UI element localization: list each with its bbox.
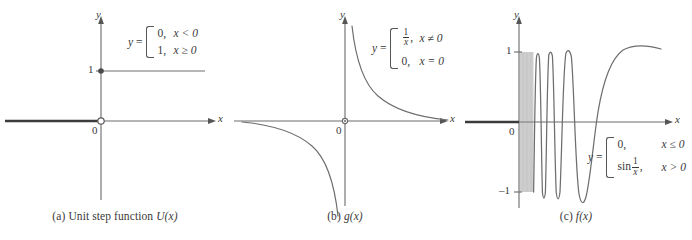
panel-a-case-row: 1, x ≥ 0 — [158, 43, 198, 57]
panel-c-x-axis-label: x — [675, 113, 680, 125]
panel-c-case-condition: x > 0 — [662, 160, 686, 174]
panel-b-case-value-fraction: 1 x , — [402, 28, 420, 48]
panel-b-fraction-numerator: 1 — [403, 28, 410, 38]
panel-a-origin-label: 0 — [92, 124, 98, 136]
panel-b-fraction-denominator: x — [403, 37, 409, 48]
panel-b-caption-function: g(x) — [344, 210, 363, 222]
panel-a-caption: (a) Unit step function U(x) — [0, 210, 230, 222]
panel-c-sine-one-over-x: y x 0 1 –1 y = 0, x ≤ 0 sin1x, x > 0 — [461, 0, 691, 240]
panel-c-plot — [461, 0, 692, 240]
panel-a-formula: y = 0, x < 0 1, x ≥ 0 — [128, 26, 198, 58]
panel-a-formula-equals: = — [136, 36, 143, 48]
panel-b-case-condition: x = 0 — [420, 54, 444, 68]
panel-c-case-row: sin1x, x > 0 — [618, 157, 686, 177]
panel-a-x-axis-label: x — [218, 112, 223, 124]
panel-b-formula-lhs: y — [372, 42, 377, 54]
panel-c-y-axis-label: y — [514, 8, 519, 20]
panel-a-case-value: 0, — [158, 26, 174, 40]
panel-c-formula-brace — [606, 137, 614, 178]
panel-c-case-row: 0, x ≤ 0 — [618, 137, 686, 151]
panel-a-formula-cases: 0, x < 0 1, x ≥ 0 — [158, 26, 198, 58]
panel-b-caption: (b) g(x) — [230, 210, 460, 222]
panel-b-y-axis-label: y — [340, 8, 345, 20]
panel-a-case-value: 1, — [158, 43, 174, 57]
panel-b-reciprocal: y x 0 y = 1 x , x ≠ 0 0, x = — [230, 0, 460, 240]
panel-c-case-value: 0, — [618, 137, 662, 151]
panel-a-case-condition: x < 0 — [174, 26, 198, 40]
panel-b-case-row: 1 x , x ≠ 0 — [402, 28, 444, 48]
panel-a-formula-lhs: y — [128, 36, 133, 48]
panel-a-caption-prefix: (a) — [52, 210, 65, 222]
panel-b-formula-cases: 1 x , x ≠ 0 0, x = 0 — [402, 28, 444, 69]
panel-c-case-condition: x ≤ 0 — [662, 137, 685, 151]
panel-c-origin-label: 0 — [509, 125, 515, 137]
panel-c-formula-equals: = — [596, 151, 603, 163]
panel-a-case-condition: x ≥ 0 — [174, 43, 197, 57]
panel-b-x-axis-label: x — [450, 112, 455, 124]
panel-a-caption-text: Unit step function — [68, 210, 153, 222]
panel-a-y-axis-label: y — [96, 8, 101, 20]
panel-b-case-condition: x ≠ 0 — [420, 31, 443, 45]
panel-c-sine-prefix: sin — [618, 160, 631, 172]
panel-b-caption-prefix: (b) — [327, 210, 341, 222]
figure-discontinuous-functions: y x 0 1 y = 0, x < 0 1, x ≥ 0 (a) Unit s… — [0, 0, 692, 240]
panel-b-case-row: 0, x = 0 — [402, 54, 444, 68]
panel-c-formula-lhs: y — [588, 151, 593, 163]
panel-a-formula-brace — [146, 26, 154, 58]
panel-c-formula: y = 0, x ≤ 0 sin1x, x > 0 — [588, 137, 686, 178]
panel-c-caption-prefix: (c) — [560, 210, 573, 222]
panel-c-tick-label-neg1: –1 — [499, 184, 510, 196]
panel-c-case-value-sine: sin1x, — [618, 157, 662, 177]
panel-c-caption-function: f(x) — [576, 210, 592, 222]
panel-c-formula-cases: 0, x ≤ 0 sin1x, x > 0 — [618, 137, 686, 178]
panel-a-tick-label-1: 1 — [88, 63, 94, 75]
panel-c-caption: (c) f(x) — [461, 210, 691, 222]
panel-a-caption-function: U(x) — [156, 210, 177, 222]
panel-c-tick-label-pos1: 1 — [506, 44, 512, 56]
panel-c-fraction-denominator: x — [632, 167, 638, 178]
panel-c-fraction-numerator: 1 — [632, 157, 639, 167]
fraction-one-over-x-icon: 1x — [632, 157, 639, 177]
panel-a-unit-step: y x 0 1 y = 0, x < 0 1, x ≥ 0 (a) Unit s… — [0, 0, 230, 240]
panel-b-case-value: 0, — [402, 54, 420, 68]
panel-b-origin-label: 0 — [336, 124, 342, 136]
panel-b-formula: y = 1 x , x ≠ 0 0, x = 0 — [372, 28, 444, 69]
panel-b-formula-equals: = — [380, 42, 387, 54]
fraction-one-over-x-icon: 1 x — [403, 28, 410, 48]
panel-a-case-row: 0, x < 0 — [158, 26, 198, 40]
panel-b-formula-brace — [390, 28, 398, 69]
